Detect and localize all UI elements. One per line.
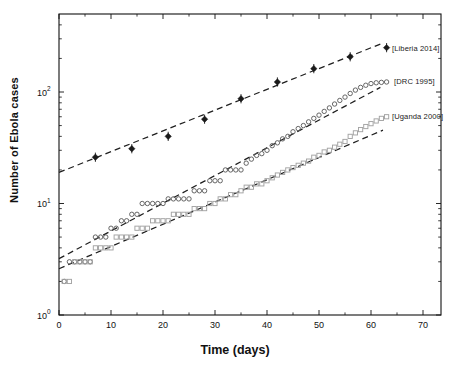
svg-text:102: 102 (37, 85, 51, 98)
y-axis-label: Number of Ebola cases (8, 77, 20, 203)
ebola-growth-figure: 010203040506070100101102 Number of Ebola… (0, 0, 454, 368)
svg-text:60: 60 (366, 320, 376, 330)
svg-text:0: 0 (56, 320, 61, 330)
plot-area: 010203040506070100101102 (0, 0, 454, 368)
svg-text:10: 10 (106, 320, 116, 330)
svg-text:70: 70 (418, 320, 428, 330)
svg-text:20: 20 (158, 320, 168, 330)
svg-text:50: 50 (314, 320, 324, 330)
svg-text:40: 40 (262, 320, 272, 330)
legend-label-liberia-2014: [Liberia 2014] (392, 44, 439, 53)
svg-text:30: 30 (210, 320, 220, 330)
svg-text:100: 100 (37, 308, 51, 321)
svg-text:101: 101 (37, 197, 51, 210)
legend-label-drc-1995: [DRC 1995] (394, 77, 435, 86)
x-axis-label: Time (days) (150, 343, 320, 357)
legend-label-uganda-2000: [Uganda 2000] (392, 112, 443, 121)
